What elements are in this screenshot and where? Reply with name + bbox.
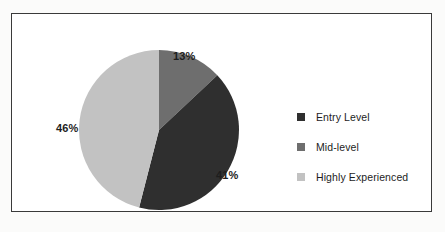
pie-label-mid-level: 13% — [173, 50, 195, 62]
legend-swatch-icon — [297, 113, 305, 121]
chart-legend: Entry Level Mid-level Highly Experienced — [297, 110, 432, 184]
legend-item-label: Entry Level — [316, 111, 370, 123]
pie-label-highly-experienced: 46% — [56, 122, 78, 134]
legend-item-entry-level[interactable]: Entry Level — [297, 110, 432, 124]
pie-chart — [78, 49, 240, 211]
legend-item-label: Mid-level — [316, 141, 359, 153]
legend-item-label: Highly Experienced — [316, 171, 408, 183]
pie-label-entry-level: 41% — [216, 169, 238, 181]
chart-page: 13% 41% 46% Entry Level Mid-level Highly… — [0, 0, 445, 232]
chart-frame: 13% 41% 46% Entry Level Mid-level Highly… — [11, 13, 432, 212]
legend-item-highly-experienced[interactable]: Highly Experienced — [297, 170, 432, 184]
pie-chart-svg — [78, 49, 240, 211]
legend-swatch-icon — [297, 143, 305, 151]
legend-swatch-icon — [297, 173, 305, 181]
legend-item-mid-level[interactable]: Mid-level — [297, 140, 432, 154]
